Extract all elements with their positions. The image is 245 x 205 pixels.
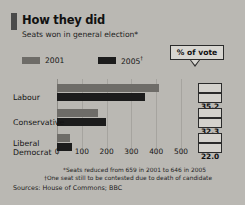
percent-of-vote-callout: % of vote xyxy=(170,45,224,60)
chart-subtitle: Seats won in general election* xyxy=(22,30,138,40)
legend-item-2001: 2001 xyxy=(22,50,64,62)
category-label-conservative: Conservative xyxy=(13,118,64,128)
chart-legend: 2001 2005† xyxy=(22,50,172,62)
value-box-libdem-2001: 18.3 xyxy=(198,133,222,143)
footnote-seats-reduced: *Seats reduced from 659 in 2001 to 646 i… xyxy=(63,166,206,174)
percent-of-vote-label: % of vote xyxy=(171,46,223,59)
legend-label-2005-text: 2005 xyxy=(121,57,140,66)
x-tick-500: 500 xyxy=(174,147,188,156)
bar-conservative-2001 xyxy=(57,109,98,117)
legend-label-2001: 2001 xyxy=(45,56,64,65)
gridline-500 xyxy=(181,79,182,155)
value-box-conservative-2001: 31.7 xyxy=(198,108,222,118)
legend-dagger-marker: † xyxy=(140,55,143,61)
legend-item-2005: 2005† xyxy=(98,50,143,62)
bar-labour-2001 xyxy=(57,84,159,92)
value-box-libdem-2005: 22.0 xyxy=(198,143,222,153)
plot-area: 0 100 200 300 400 500 xyxy=(57,79,181,155)
page-title: How they did xyxy=(22,13,105,27)
legend-label-2005: 2005† xyxy=(121,55,143,66)
bar-libdem-2001 xyxy=(57,134,70,142)
chart-figure: How they did Seats won in general electi… xyxy=(0,0,245,205)
value-box-conservative-2005: 32.3 xyxy=(198,118,222,128)
value-box-labour-2001: 40.7 xyxy=(198,83,222,93)
x-tick-300: 300 xyxy=(124,147,138,156)
footnote-contested-seat: †One seat still to be contested due to d… xyxy=(44,174,212,182)
callout-pointer-fill xyxy=(191,60,199,65)
bar-labour-2005 xyxy=(57,93,145,101)
x-tick-200: 200 xyxy=(100,147,114,156)
x-tick-0: 0 xyxy=(55,147,60,156)
value-box-labour-2005: 35.2 xyxy=(198,93,222,103)
x-axis-tick-labels: 0 100 200 300 400 500 xyxy=(57,147,197,158)
title-accent-bar xyxy=(11,13,17,30)
bar-conservative-2005 xyxy=(57,118,106,126)
x-tick-400: 400 xyxy=(149,147,163,156)
category-label-libdem-line2: Democrat xyxy=(13,148,52,158)
legend-swatch-2005 xyxy=(98,57,116,64)
source-line: Sources: House of Commons; BBC xyxy=(13,184,122,193)
category-label-labour: Labour xyxy=(13,93,40,103)
value-libdem-2005: 22.0 xyxy=(201,152,219,161)
x-tick-100: 100 xyxy=(75,147,89,156)
legend-swatch-2001 xyxy=(22,57,40,64)
